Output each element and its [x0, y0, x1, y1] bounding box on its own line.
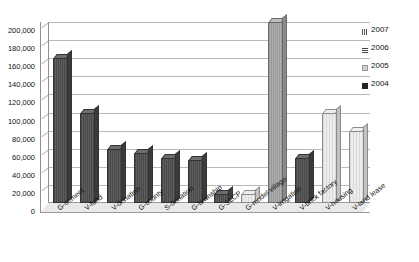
- bar-column: [107, 22, 122, 203]
- bar-column: [80, 22, 95, 203]
- legend-swatch-icon: [362, 65, 368, 71]
- y-axis-tick-label: 100,000: [8, 118, 35, 126]
- y-axis-tick-label: 80,000: [12, 136, 35, 144]
- legend-swatch-icon: [362, 29, 368, 35]
- legend-label: 2007: [371, 25, 389, 35]
- y-axis-tick-labels: 020,00040,00060,00080,000100,000120,0001…: [0, 22, 38, 203]
- y-axis-tick-label: 140,000: [8, 81, 35, 89]
- legend-swatch-icon: [362, 47, 368, 53]
- legend-item: 2005: [362, 60, 419, 78]
- bar-series: [48, 22, 370, 203]
- bar-column: [322, 22, 337, 203]
- legend-item: 2006: [362, 42, 419, 60]
- legend-label: 2004: [371, 79, 389, 89]
- plot-area: [40, 22, 370, 203]
- y-axis-tick-label: 20,000: [12, 190, 35, 198]
- bar-column: [188, 22, 203, 203]
- legend-swatch-icon: [362, 83, 368, 89]
- legend-label: 2005: [371, 61, 389, 71]
- legend-item: 2007: [362, 24, 419, 42]
- y-axis-tick-label: 0: [31, 208, 35, 216]
- y-axis-front-line: [40, 22, 41, 212]
- y-axis-tick-label: 160,000: [8, 63, 35, 71]
- y-axis-tick-label: 60,000: [12, 154, 35, 162]
- bar-side-face: [363, 123, 368, 202]
- y-axis-tick-label: 120,000: [8, 99, 35, 107]
- y-axis-tick-label: 40,000: [12, 172, 35, 180]
- y-axis-tick-label: 180,000: [8, 45, 35, 53]
- bar-chart: 020,00040,00060,00080,000100,000120,0001…: [0, 0, 419, 262]
- bar-column: [53, 22, 68, 203]
- legend-label: 2006: [371, 43, 389, 53]
- bar-column: [241, 22, 256, 203]
- x-axis-tick-labels: G-cementV-fundV-donationG-countyS-donati…: [40, 206, 380, 262]
- bar-column: [295, 22, 310, 203]
- y-axis-tick-label: 200,000: [8, 27, 35, 35]
- legend-item: 2004: [362, 78, 419, 96]
- bar-side-face: [94, 105, 99, 202]
- bar: [53, 58, 68, 203]
- bar-side-face: [336, 105, 341, 202]
- bar: [107, 149, 122, 203]
- bar-column: [134, 22, 149, 203]
- bar-side-face: [67, 50, 72, 202]
- legend: 2007200620052004: [362, 24, 419, 96]
- bar-column: [214, 22, 229, 203]
- bar-column: [161, 22, 176, 203]
